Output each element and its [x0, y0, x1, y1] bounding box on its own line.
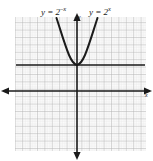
- y-axis-arrow-down: [73, 152, 80, 160]
- coordinate-plane: [0, 0, 153, 161]
- y-axis-label: y: [78, 14, 81, 20]
- x-axis-arrow-left: [1, 87, 9, 94]
- grid-paper: [15, 17, 146, 151]
- curve-label-right: y = 2x: [89, 6, 111, 17]
- curve-label-left-lhs: y =: [41, 7, 53, 17]
- curve-label-right-exponent: x: [108, 5, 111, 12]
- graph-figure: y = 2–x y = 2x y x: [0, 0, 153, 161]
- x-axis-label: x: [145, 92, 148, 98]
- curve-label-left: y = 2–x: [41, 6, 66, 17]
- curve-label-right-lhs: y =: [89, 7, 101, 17]
- curve-label-left-exponent: –x: [60, 5, 66, 12]
